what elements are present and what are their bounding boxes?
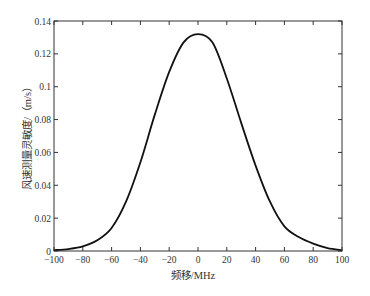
x-tick-label: 80 (308, 255, 318, 265)
data-line (54, 34, 342, 250)
plot-frame (54, 21, 342, 251)
x-tick-labels: −100−80−60−40−20020406080100 (44, 255, 349, 265)
x-axis-label: 频移/MHz (171, 269, 216, 281)
y-tick-label: 0.02 (34, 214, 51, 224)
y-tick-labels: 00.020.040.060.080.10.120.14 (34, 17, 51, 257)
y-tick-label: 0.1 (39, 82, 51, 92)
x-tick-label: 20 (222, 255, 232, 265)
x-tick-label: 60 (280, 255, 290, 265)
y-tick-label: 0.14 (34, 17, 51, 27)
y-tick-label: 0.04 (34, 181, 51, 191)
x-tick-label: −40 (133, 255, 148, 265)
chart-canvas: −100−80−60−40−20020406080100 00.020.040.… (0, 0, 370, 296)
x-tick-label: 100 (335, 255, 350, 265)
x-tick-label: −20 (162, 255, 177, 265)
chart: −100−80−60−40−20020406080100 00.020.040.… (0, 0, 370, 296)
tick-marks (54, 21, 342, 251)
y-tick-label: 0.06 (34, 148, 51, 158)
y-tick-label: 0.08 (34, 115, 51, 125)
y-tick-label: 0 (46, 247, 51, 257)
x-tick-label: 40 (251, 255, 261, 265)
y-axis-label: 风速测量灵敏度/（m/s） (21, 82, 33, 190)
x-tick-label: −100 (44, 255, 64, 265)
x-tick-label: −60 (104, 255, 119, 265)
x-tick-label: −80 (75, 255, 90, 265)
y-tick-label: 0.12 (34, 49, 51, 59)
x-tick-label: 0 (196, 255, 201, 265)
